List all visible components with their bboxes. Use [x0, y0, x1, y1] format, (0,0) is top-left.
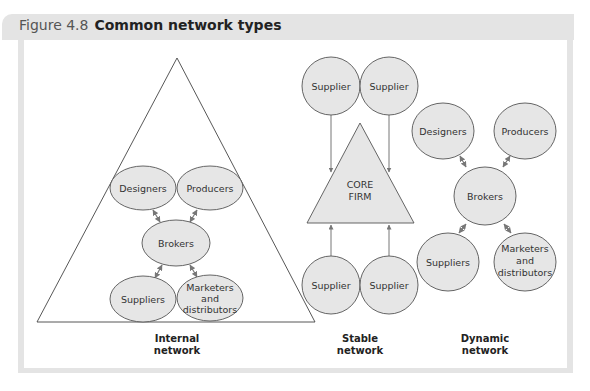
internal-network: Designers Producers Brokers Suppliers Ma…	[37, 58, 315, 356]
edge-dyn-brokers-suppliers	[459, 224, 466, 233]
node-suppliers: Suppliers	[110, 276, 176, 322]
node-dyn-designers: Designers	[412, 103, 474, 159]
svg-text:FIRM: FIRM	[348, 191, 371, 202]
svg-text:Marketers: Marketers	[501, 243, 548, 254]
edge-brokers-suppliers	[155, 265, 162, 278]
node-brokers: Brokers	[142, 220, 210, 266]
svg-text:and: and	[201, 293, 219, 304]
svg-text:Supplier: Supplier	[311, 280, 350, 291]
svg-text:Suppliers: Suppliers	[121, 294, 165, 305]
svg-text:Producers: Producers	[501, 126, 548, 137]
node-dyn-producers: Producers	[494, 103, 556, 159]
svg-text:Supplier: Supplier	[311, 81, 350, 92]
node-dyn-marketers-distributors: Marketers and distributors	[494, 233, 556, 291]
svg-text:Designers: Designers	[419, 126, 467, 137]
edge-producers-brokers	[190, 210, 197, 222]
node-marketers-distributors: Marketers and distributors	[177, 275, 243, 321]
svg-text:distributors: distributors	[183, 304, 237, 315]
node-dyn-brokers: Brokers	[454, 167, 516, 225]
edge-dyn-brokers-marketers	[504, 224, 511, 233]
svg-text:Brokers: Brokers	[467, 191, 503, 202]
dynamic-network: Designers Producers Brokers Suppliers Ma…	[412, 103, 556, 356]
node-core-firm: CORE FIRM	[307, 123, 414, 223]
node-supplier-top-right: Supplier	[360, 57, 418, 115]
svg-text:Designers: Designers	[119, 183, 167, 194]
stable-network-caption: Stable	[342, 333, 378, 344]
node-designers: Designers	[110, 166, 176, 210]
edge-designers-brokers	[153, 210, 160, 222]
dynamic-network-caption-2: network	[462, 345, 509, 356]
edge-brokers-marketers	[190, 265, 197, 277]
svg-text:and: and	[516, 255, 534, 266]
edge-dyn-producers-brokers	[503, 156, 510, 167]
svg-text:CORE: CORE	[347, 179, 374, 190]
svg-text:distributors: distributors	[498, 267, 552, 278]
node-supplier-top-left: Supplier	[302, 57, 360, 115]
edge-dyn-designers-brokers	[460, 156, 466, 167]
svg-text:Brokers: Brokers	[158, 238, 194, 249]
node-supplier-bottom-left: Supplier	[302, 256, 360, 314]
node-producers: Producers	[177, 166, 243, 210]
internal-network-caption-2: network	[154, 345, 201, 356]
stable-network-caption-2: network	[337, 345, 384, 356]
node-supplier-bottom-right: Supplier	[360, 256, 418, 314]
dynamic-network-caption: Dynamic	[461, 333, 510, 344]
node-dyn-suppliers: Suppliers	[417, 233, 479, 291]
svg-text:Producers: Producers	[186, 183, 233, 194]
svg-text:Marketers: Marketers	[186, 282, 233, 293]
internal-network-caption: Internal	[155, 333, 200, 344]
svg-text:Supplier: Supplier	[369, 280, 408, 291]
network-diagram: Designers Producers Brokers Suppliers Ma…	[0, 0, 590, 391]
stable-network: CORE FIRM Supplier Supplier Supplier Sup…	[302, 57, 418, 356]
svg-text:Supplier: Supplier	[369, 81, 408, 92]
svg-text:Suppliers: Suppliers	[426, 257, 470, 268]
